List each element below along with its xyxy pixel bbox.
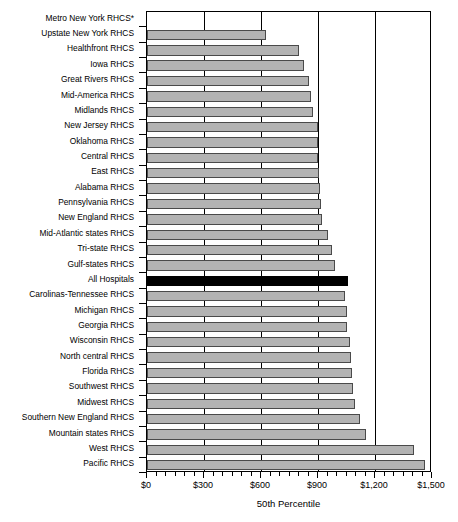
bar [147,137,318,147]
x-tick-minor [365,472,366,476]
category-label: Midwest RHCS [77,398,134,407]
bar-row [147,120,432,135]
bar-row [147,43,432,58]
bar-row [147,350,432,365]
x-tick-label: $600 [250,480,270,491]
category-label: All Hospitals [88,275,134,284]
category-tick [139,349,146,350]
x-tick-label: $0 [141,480,151,491]
bar [147,30,266,40]
category-tick [139,165,146,166]
x-tick-minor [279,472,280,476]
x-tick-minor [175,472,176,476]
category-tick [139,472,146,473]
x-tick-minor [156,472,157,476]
bar-row [147,319,432,334]
category-tick [139,411,146,412]
category-tick [139,42,146,43]
bar [147,260,335,270]
x-tick-minor [194,472,195,476]
category-tick [139,226,146,227]
bar-row [147,273,432,288]
bar [147,91,311,101]
x-tick-minor [393,472,394,476]
bar [147,245,332,255]
category-tick [139,364,146,365]
category-label: Carolinas-Tennessee RHCS [29,290,134,299]
bar-row [147,412,432,427]
category-label: Pacific RHCS [83,459,134,468]
bar [147,383,353,393]
bar-chart: Metro New York RHCS*Upstate New York RHC… [0,0,458,522]
category-label-column: Metro New York RHCS*Upstate New York RHC… [0,11,140,472]
x-tick-minor [270,472,271,476]
bar [147,199,321,209]
bar [147,60,304,70]
category-tick [139,26,146,27]
bar [147,337,350,347]
category-label: Mountain states RHCS [49,429,134,438]
category-label: Iowa RHCS [90,60,134,69]
bar-row [147,365,432,380]
category-label: Southern New England RHCS [22,413,134,422]
bar [147,168,319,178]
bar-row [147,304,432,319]
category-tick [139,272,146,273]
x-tick-minor [241,472,242,476]
bar [147,45,299,55]
bar-row [147,196,432,211]
bar [147,122,318,132]
bar-row [147,89,432,104]
category-label: Healthfront RHCS [67,44,134,53]
bar [147,429,366,439]
category-label: Florida RHCS [82,367,134,376]
bar-row [147,289,432,304]
category-label: Michigan RHCS [74,306,134,315]
bar [147,352,351,362]
x-tick-minor [355,472,356,476]
bar-row [147,166,432,181]
category-label: West RHCS [89,444,134,453]
category-tick [139,119,146,120]
bar [147,291,345,301]
category-label: Southwest RHCS [69,382,134,391]
bar [147,460,425,470]
bar-row [147,12,432,27]
x-tick-minor [403,472,404,476]
bar-row [147,396,432,411]
category-label: New Jersey RHCS [64,121,134,130]
category-label: Oklahoma RHCS [70,137,134,146]
x-tick-minor [308,472,309,476]
bar-row [147,427,432,442]
category-label: Gulf-states RHCS [67,260,134,269]
bar [147,276,348,286]
category-tick [139,134,146,135]
category-tick [139,441,146,442]
category-label: Wisconsin RHCS [70,336,134,345]
x-tick-minor [222,472,223,476]
category-tick [139,242,146,243]
category-label: Upstate New York RHCS [41,29,134,38]
category-tick [139,180,146,181]
plot-area [146,11,431,472]
bar-row [147,58,432,73]
x-tick-minor [298,472,299,476]
bar-row [147,104,432,119]
category-label: Metro New York RHCS* [46,14,134,23]
bar-row [147,442,432,457]
category-tick [139,88,146,89]
category-tick [139,288,146,289]
category-tick [139,57,146,58]
bar-row [147,135,432,150]
category-label: Midlands RHCS [74,106,134,115]
category-tick [139,318,146,319]
category-tick [139,380,146,381]
category-tick [139,149,146,150]
bar [147,399,355,409]
bar [147,107,313,117]
category-tick [139,72,146,73]
bar-row [147,73,432,88]
bar [147,153,318,163]
bar-row [147,27,432,42]
category-label: Georgia RHCS [78,321,134,330]
